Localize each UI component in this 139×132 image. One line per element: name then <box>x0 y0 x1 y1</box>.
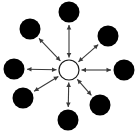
arrow-hub-w <box>27 67 57 72</box>
diagram-canvas <box>0 0 139 132</box>
node-s[interactable] <box>58 110 79 131</box>
arrow-hub-n <box>67 25 72 58</box>
hub-layer <box>59 60 79 80</box>
node-se[interactable] <box>90 95 111 116</box>
radial-hub-diagram <box>0 0 139 132</box>
arrow-hub-nw <box>39 38 60 61</box>
node-e[interactable] <box>114 60 135 81</box>
center-hub[interactable] <box>59 60 79 80</box>
node-ne[interactable] <box>98 26 119 47</box>
node-sw[interactable] <box>13 88 34 109</box>
arrow-hub-ne <box>78 45 98 62</box>
arrow-hub-sw <box>34 77 58 92</box>
arrow-hub-e <box>82 68 112 73</box>
arrow-hub-se <box>77 79 91 95</box>
node-n[interactable] <box>59 2 80 23</box>
arrow-hub-s <box>66 83 71 108</box>
node-nw[interactable] <box>20 19 41 40</box>
node-w[interactable] <box>4 59 25 80</box>
